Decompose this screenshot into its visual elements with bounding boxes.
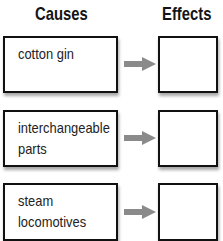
cause-text: steam locomotives: [18, 190, 86, 232]
cause-line-2: parts: [18, 138, 110, 159]
cause-text: interchangeable parts: [18, 117, 110, 159]
cause-box: steam locomotives: [3, 183, 118, 241]
right-arrow-icon: [124, 205, 156, 219]
effect-box[interactable]: [158, 183, 218, 241]
effects-header: Effects: [162, 3, 211, 25]
cause-line-1: interchangeable: [18, 117, 110, 138]
right-arrow-icon: [124, 57, 156, 71]
right-arrow-icon: [124, 131, 156, 145]
effect-box[interactable]: [158, 110, 218, 167]
cause-box: interchangeable parts: [3, 110, 118, 167]
cause-line-1: steam: [18, 190, 86, 211]
cause-box: cotton gin: [3, 36, 118, 93]
cause-line-2: locomotives: [18, 211, 86, 232]
effect-box[interactable]: [158, 36, 218, 93]
causes-header: Causes: [35, 3, 88, 25]
cause-text: cotton gin: [18, 43, 74, 64]
cause-line-1: cotton gin: [18, 43, 74, 64]
